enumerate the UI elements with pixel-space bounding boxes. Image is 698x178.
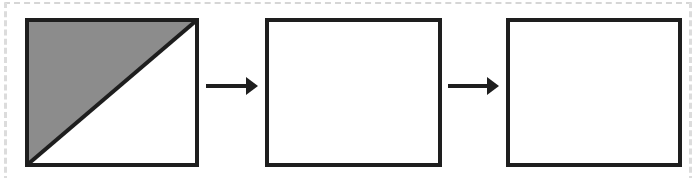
box-2 <box>267 20 440 165</box>
diagram-canvas <box>0 0 698 178</box>
box-1 <box>27 20 197 165</box>
arrow-1-icon <box>206 77 258 95</box>
box-3 <box>508 20 680 165</box>
arrow-2-icon <box>448 77 499 95</box>
